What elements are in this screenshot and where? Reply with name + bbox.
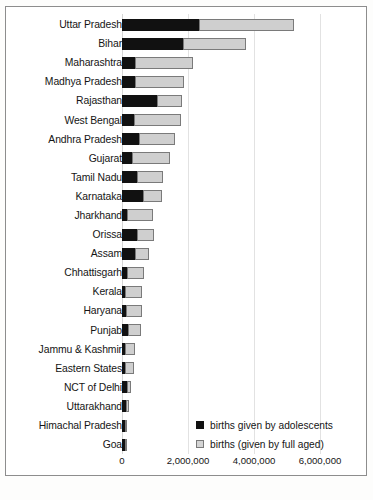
bar-row: Tamil Nadu	[0, 168, 373, 187]
legend-item-adolescents: births given by adolescents	[196, 417, 333, 433]
bar-segment-full-aged	[157, 95, 182, 107]
x-tick-label: 4,000,000	[233, 455, 276, 466]
bar-row: Uttarakhand	[0, 397, 373, 416]
bar-segment-adolescents	[122, 38, 183, 50]
bar-segment-full-aged	[125, 286, 143, 298]
x-tick-label: 0	[119, 455, 124, 466]
plot-area: Uttar PradeshBiharMaharashtraMadhya Prad…	[0, 0, 373, 500]
category-label: NCT of Delhi	[0, 382, 122, 393]
bar-segment-adolescents	[122, 76, 135, 88]
stacked-bar	[122, 400, 129, 412]
bar-segment-full-aged	[135, 76, 184, 88]
chart-figure: Uttar PradeshBiharMaharashtraMadhya Prad…	[0, 0, 373, 500]
stacked-bar	[122, 19, 294, 31]
category-label: Karnataka	[0, 191, 122, 202]
stacked-bar	[122, 57, 193, 69]
category-label: Orissa	[0, 229, 122, 240]
bar-row: Uttar Pradesh	[0, 15, 373, 34]
bar-row: Karnataka	[0, 187, 373, 206]
category-label: Chhattisgarh	[0, 267, 122, 278]
bar-row: Orissa	[0, 225, 373, 244]
bar-segment-full-aged	[137, 229, 154, 241]
bar-row: NCT of Delhi	[0, 378, 373, 397]
bar-segment-full-aged	[183, 38, 246, 50]
category-label: Uttarakhand	[0, 401, 122, 412]
x-tick-label: 6,000,000	[299, 455, 342, 466]
bar-segment-adolescents	[122, 57, 135, 69]
bar-row: Assam	[0, 244, 373, 263]
category-label: Andhra Pradesh	[0, 134, 122, 145]
stacked-bar	[122, 248, 149, 260]
legend-item-full-aged: births (given by full aged)	[196, 436, 333, 452]
stacked-bar	[122, 95, 182, 107]
category-label: Madhya Pradesh	[0, 76, 122, 87]
stacked-bar	[122, 171, 163, 183]
stacked-bar	[122, 38, 246, 50]
x-tick-label: 2,000,000	[167, 455, 210, 466]
bar-row: Jammu & Kashmir	[0, 340, 373, 359]
bar-segment-full-aged	[127, 209, 153, 221]
bar-row: Chhattisgarh	[0, 263, 373, 282]
bar-row: Bihar	[0, 34, 373, 53]
bar-segment-full-aged	[135, 248, 149, 260]
stacked-bar	[122, 76, 184, 88]
category-label: Kerala	[0, 286, 122, 297]
bar-segment-full-aged	[125, 362, 135, 374]
category-label: Goa	[0, 439, 122, 450]
category-label: Haryana	[0, 305, 122, 316]
category-label: Maharashtra	[0, 57, 122, 68]
stacked-bar	[122, 286, 142, 298]
bar-row: Jharkhand	[0, 206, 373, 225]
category-label: West Bengal	[0, 115, 122, 126]
bar-segment-adolescents	[122, 229, 137, 241]
category-label: Rajasthan	[0, 95, 122, 106]
bar-segment-full-aged	[127, 381, 131, 393]
bar-segment-full-aged	[127, 267, 144, 279]
bar-segment-full-aged	[199, 19, 294, 31]
bar-segment-full-aged	[125, 343, 135, 355]
bar-segment-full-aged	[132, 152, 170, 164]
bar-segment-full-aged	[125, 439, 128, 451]
legend-swatch-black-square	[196, 421, 204, 429]
x-axis-ticks: 02,000,0004,000,0006,000,000	[0, 455, 373, 471]
stacked-bar	[122, 439, 127, 451]
bar-segment-full-aged	[125, 420, 128, 432]
bar-row: Madhya Pradesh	[0, 72, 373, 91]
bar-segment-full-aged	[134, 114, 181, 126]
bar-segment-adolescents	[122, 133, 139, 145]
stacked-bar	[122, 362, 134, 374]
bar-row: Eastern States	[0, 359, 373, 378]
category-label: Bihar	[0, 38, 122, 49]
bar-segment-full-aged	[143, 190, 162, 202]
chart-legend: births given by adolescents births (give…	[196, 417, 333, 455]
bar-segment-adolescents	[122, 248, 135, 260]
stacked-bar	[122, 420, 127, 432]
bar-row: Punjab	[0, 321, 373, 340]
stacked-bar	[122, 190, 162, 202]
bar-segment-full-aged	[126, 400, 129, 412]
bar-row: Maharashtra	[0, 53, 373, 72]
stacked-bar	[122, 381, 131, 393]
bar-segment-adolescents	[122, 171, 137, 183]
stacked-bar	[122, 343, 135, 355]
bar-row: West Bengal	[0, 110, 373, 129]
category-label: Himachal Pradesh	[0, 420, 122, 431]
bar-segment-full-aged	[135, 57, 193, 69]
bar-row: Gujarat	[0, 149, 373, 168]
legend-label-adolescents: births given by adolescents	[210, 420, 333, 431]
bar-row: Kerala	[0, 282, 373, 301]
category-label: Assam	[0, 248, 122, 259]
category-label: Punjab	[0, 325, 122, 336]
stacked-bar	[122, 324, 141, 336]
category-label: Tamil Nadu	[0, 172, 122, 183]
bar-segment-adolescents	[122, 152, 132, 164]
legend-label-full-aged: births (given by full aged)	[210, 439, 324, 450]
stacked-bar	[122, 152, 170, 164]
bar-segment-full-aged	[139, 133, 175, 145]
bar-segment-adolescents	[122, 114, 134, 126]
bar-row: Haryana	[0, 301, 373, 320]
stacked-bar	[122, 209, 153, 221]
bar-segment-adolescents	[122, 190, 143, 202]
category-label: Jharkhand	[0, 210, 122, 221]
stacked-bar	[122, 305, 142, 317]
